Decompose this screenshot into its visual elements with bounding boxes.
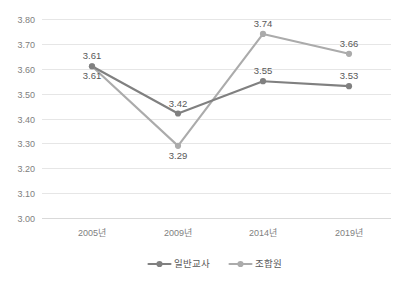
- series-lines: [92, 34, 349, 146]
- data-point-marker: [346, 51, 352, 57]
- data-value-label: 3.66: [340, 38, 359, 49]
- y-axis-tick-label: 3.50: [17, 90, 35, 100]
- data-point-marker: [260, 78, 266, 84]
- legend-label[interactable]: 일반교사: [174, 258, 210, 269]
- y-axis-tick-label: 3.00: [17, 214, 35, 224]
- data-point-marker: [260, 31, 266, 37]
- line-chart: 3.803.703.603.503.403.303.203.103.00 200…: [0, 0, 411, 290]
- data-point-marker: [89, 63, 95, 69]
- data-value-label: 3.61: [83, 50, 102, 61]
- data-value-label: 3.29: [169, 150, 188, 161]
- y-axis-tick-label: 3.30: [17, 139, 35, 149]
- data-point-marker: [346, 83, 352, 89]
- x-axis-tick-labels: 2005년2009년2014년2019년: [78, 228, 363, 238]
- x-axis-tick-label: 2005년: [78, 228, 106, 238]
- y-axis-tick-label: 3.60: [17, 65, 35, 75]
- legend-label[interactable]: 조합원: [255, 258, 282, 269]
- data-value-label: 3.42: [169, 98, 188, 109]
- data-value-label: 3.53: [340, 70, 359, 81]
- x-axis-tick-label: 2019년: [335, 228, 363, 238]
- legend-marker-icon: [237, 261, 243, 267]
- data-value-label: 3.61: [83, 70, 102, 81]
- y-axis-tick-labels: 3.803.703.603.503.403.303.203.103.00: [17, 15, 35, 224]
- x-axis-tick-label: 2014년: [249, 228, 277, 238]
- chart-canvas: 3.803.703.603.503.403.303.203.103.00 200…: [0, 0, 411, 290]
- data-point-marker: [175, 110, 181, 116]
- chart-legend[interactable]: 일반교사조합원: [149, 258, 282, 269]
- y-axis-tick-label: 3.80: [17, 15, 35, 25]
- series-line-2: [92, 34, 349, 146]
- data-value-label: 3.74: [254, 18, 273, 29]
- y-axis-tick-label: 3.70: [17, 40, 35, 50]
- legend-marker-icon: [156, 261, 162, 267]
- y-axis-tick-label: 3.40: [17, 115, 35, 125]
- data-value-label: 3.55: [254, 65, 273, 76]
- y-axis-tick-label: 3.10: [17, 189, 35, 199]
- y-axis-tick-label: 3.20: [17, 164, 35, 174]
- x-axis-tick-label: 2009년: [164, 228, 192, 238]
- data-point-marker: [175, 143, 181, 149]
